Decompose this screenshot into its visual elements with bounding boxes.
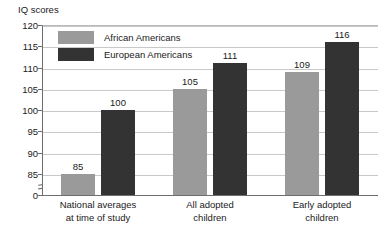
bar [173, 89, 207, 195]
bar-value-label: 116 [334, 29, 349, 40]
legend-swatch-african-americans [58, 31, 94, 44]
y-axis-tick-label: 110 [4, 62, 38, 73]
legend-item: European Americans [58, 47, 192, 62]
category-label-line: National averages [60, 199, 137, 212]
bar-value-label: 109 [294, 59, 310, 70]
category-label-line: children [186, 212, 234, 225]
iq-scores-bar-chart: IQ scores 0859095100105110115120 African… [0, 0, 392, 248]
bar-value-label: 111 [223, 50, 237, 61]
bar [325, 42, 359, 195]
bar [61, 174, 95, 195]
legend-label: European Americans [104, 49, 192, 60]
chart-legend: African Americans European Americans [58, 30, 192, 64]
x-axis-category-label: All adoptedchildren [186, 199, 234, 224]
bar [101, 110, 135, 195]
y-axis-tick-labels: 0859095100105110115120 [0, 0, 38, 248]
x-axis-line [42, 195, 378, 196]
x-axis-category-label: National averagesat time of study [60, 199, 137, 224]
category-label-line: All adopted [186, 199, 234, 212]
bar-value-label: 85 [73, 161, 84, 172]
y-axis-tick-label: 115 [4, 41, 38, 52]
y-axis-tick-label: 95 [4, 126, 38, 137]
x-axis-category-label: Early adoptedchildren [293, 199, 352, 224]
legend-item: African Americans [58, 30, 192, 45]
category-label-line: at time of study [60, 212, 137, 225]
bar-value-label: 100 [110, 97, 126, 108]
bar [213, 63, 247, 195]
y-axis-tick-label: 105 [4, 83, 38, 94]
bar [285, 72, 319, 195]
y-axis-tick-label: 120 [4, 20, 38, 31]
legend-swatch-european-americans [58, 48, 94, 61]
y-axis-tick-label: 90 [4, 147, 38, 158]
y-axis-tick-label: 100 [4, 105, 38, 116]
category-label-line: children [293, 212, 352, 225]
y-axis-tick-label: 85 [4, 168, 38, 179]
category-label-line: Early adopted [293, 199, 352, 212]
bar-value-label: 105 [182, 76, 198, 87]
legend-label: African Americans [104, 32, 181, 43]
y-axis-tick-label: 0 [4, 190, 38, 201]
